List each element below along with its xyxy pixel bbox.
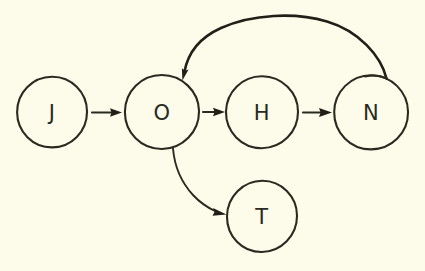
node-o-label: O [153, 101, 170, 125]
edge-n-to-o-tail-tick [365, 76, 387, 79]
edge-j-to-o[interactable] [92, 108, 122, 116]
node-n-label: N [363, 101, 379, 125]
edge-h-to-n[interactable] [303, 108, 332, 117]
node-t[interactable]: T [227, 181, 297, 252]
diagram-canvas: J O H N T [0, 0, 425, 271]
node-h[interactable]: H [226, 76, 298, 148]
edge-o-to-h[interactable] [203, 108, 225, 116]
node-n[interactable]: N [334, 75, 408, 149]
edge-h-to-n-arrowhead [319, 108, 332, 117]
edge-o-to-t[interactable] [173, 149, 227, 216]
state-diagram: J O H N T [0, 0, 425, 271]
edge-o-to-t-arc [173, 149, 215, 212]
edge-o-to-h-arrowhead [213, 108, 225, 116]
node-h-label: H [254, 101, 270, 125]
edge-n-to-o[interactable] [182, 16, 387, 81]
edge-n-to-o-arc [184, 16, 386, 79]
edge-o-to-t-arrowhead [213, 208, 227, 216]
node-o[interactable]: O [125, 75, 199, 149]
edge-j-to-o-arrowhead [110, 108, 122, 116]
node-t-label: T [254, 205, 268, 229]
node-j[interactable]: J [17, 77, 87, 148]
node-j-label: J [47, 101, 56, 125]
